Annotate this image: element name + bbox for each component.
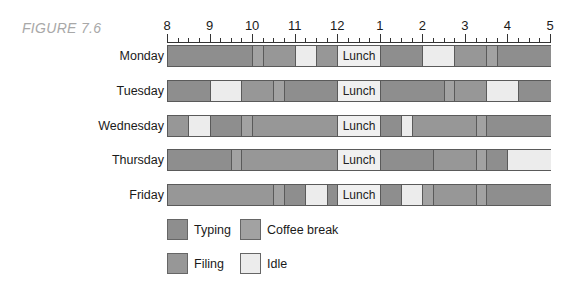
- tick-label: 1: [376, 18, 383, 33]
- minor-tick: [263, 38, 264, 43]
- segment-coffee-break: [274, 81, 285, 101]
- segment-coffee-break: [274, 185, 285, 205]
- segment-idle: [487, 81, 519, 101]
- segment-typing: [285, 81, 338, 101]
- segment-idle: [423, 46, 455, 66]
- segment-typing: [381, 185, 402, 205]
- minor-tick: [529, 38, 530, 43]
- bar-monday: Lunch: [167, 45, 551, 67]
- segment-lunch: Lunch: [338, 81, 381, 101]
- segment-filing: [253, 116, 338, 136]
- segment-filing: [168, 185, 274, 205]
- segment-filing: [242, 81, 274, 101]
- segment-typing: [381, 150, 434, 170]
- segment-idle: [211, 81, 243, 101]
- segment-filing: [434, 150, 477, 170]
- segment-idle: [402, 185, 423, 205]
- tick-label: 12: [330, 18, 344, 33]
- legend-label: Typing: [194, 223, 231, 237]
- minor-tick: [220, 38, 221, 43]
- segment-idle: [296, 46, 317, 66]
- segment-typing: [381, 116, 402, 136]
- row-label-wednesday: Wednesday: [14, 119, 164, 133]
- segment-typing: [168, 46, 253, 66]
- segment-lunch: Lunch: [338, 116, 381, 136]
- lunch-label: Lunch: [338, 49, 380, 63]
- minor-tick: [305, 38, 306, 43]
- segment-coffee-break: [423, 185, 434, 205]
- segment-typing: [487, 150, 508, 170]
- segment-typing: [381, 46, 424, 66]
- tick-label: 2: [419, 18, 426, 33]
- segment-coffee-break: [477, 116, 488, 136]
- major-tick: [380, 34, 381, 43]
- minor-tick: [178, 38, 179, 43]
- row-label-friday: Friday: [14, 188, 164, 202]
- minor-tick: [444, 38, 445, 43]
- tick-label: 5: [546, 18, 553, 33]
- segment-lunch: Lunch: [338, 185, 381, 205]
- minor-tick: [454, 38, 455, 43]
- legend-item-idle: Idle: [240, 253, 287, 274]
- row-label-thursday: Thursday: [14, 153, 164, 167]
- segment-coffee-break: [445, 81, 456, 101]
- segment-typing: [168, 81, 211, 101]
- tick-label: 8: [163, 18, 170, 33]
- legend-label: Idle: [267, 257, 287, 271]
- minor-tick: [359, 38, 360, 43]
- segment-idle: [508, 150, 551, 170]
- segment-filing: [413, 116, 477, 136]
- minor-tick: [284, 38, 285, 43]
- legend-label: Coffee break: [267, 223, 338, 237]
- segment-filing: [317, 46, 338, 66]
- tick-label: 10: [245, 18, 259, 33]
- segment-coffee-break: [242, 116, 253, 136]
- minor-tick: [412, 38, 413, 43]
- segment-coffee-break: [477, 150, 488, 170]
- segment-coffee-break: [253, 46, 264, 66]
- segment-idle: [306, 185, 327, 205]
- segment-filing: [434, 185, 477, 205]
- segment-typing: [487, 116, 551, 136]
- bar-thursday: Lunch: [167, 149, 551, 171]
- legend-label: Filing: [194, 257, 224, 271]
- lunch-label: Lunch: [338, 84, 380, 98]
- minor-tick: [327, 38, 328, 43]
- segment-typing: [328, 185, 339, 205]
- segment-idle: [189, 116, 210, 136]
- major-tick: [252, 34, 253, 43]
- time-axis: 8910111212345: [0, 0, 567, 45]
- segment-filing: [264, 46, 296, 66]
- bar-wednesday: Lunch: [167, 115, 551, 137]
- tick-label: 11: [288, 18, 302, 33]
- legend-swatch-filing: [167, 253, 188, 274]
- legend-item-typing: Typing: [167, 219, 231, 240]
- major-tick: [167, 34, 168, 43]
- minor-tick: [476, 38, 477, 43]
- tick-label: 3: [461, 18, 468, 33]
- minor-tick: [497, 38, 498, 43]
- segment-filing: [242, 150, 338, 170]
- major-tick: [422, 34, 423, 43]
- tick-label: 4: [504, 18, 511, 33]
- minor-tick: [273, 38, 274, 43]
- row-label-monday: Monday: [14, 49, 164, 63]
- minor-tick: [231, 38, 232, 43]
- minor-tick: [348, 38, 349, 43]
- segment-filing: [455, 81, 487, 101]
- legend-swatch-typing: [167, 219, 188, 240]
- legend-swatch-coffee: [240, 219, 261, 240]
- segment-coffee-break: [487, 46, 498, 66]
- minor-tick: [188, 38, 189, 43]
- segment-lunch: Lunch: [338, 46, 381, 66]
- segment-typing: [498, 46, 551, 66]
- segment-typing: [487, 185, 551, 205]
- segment-coffee-break: [477, 185, 488, 205]
- minor-tick: [390, 38, 391, 43]
- bar-tuesday: Lunch: [167, 80, 551, 102]
- major-tick: [210, 34, 211, 43]
- major-tick: [465, 34, 466, 43]
- segment-typing: [381, 81, 445, 101]
- minor-tick: [241, 38, 242, 43]
- major-tick: [295, 34, 296, 43]
